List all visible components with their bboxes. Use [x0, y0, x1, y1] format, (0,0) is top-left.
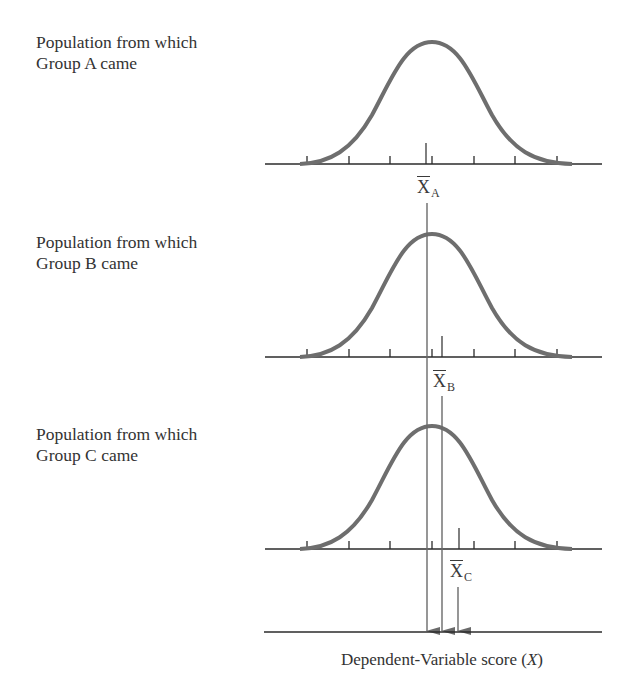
- group-a-normal-curve: [300, 42, 572, 164]
- group-b-mean-subscript: B: [447, 380, 455, 394]
- group-c-mean-subscript: C: [464, 570, 472, 584]
- group-b-distribution: [265, 234, 602, 357]
- group-b-ticks: [307, 349, 557, 357]
- dependent-variable-axis-title: Dependent-Variable score (X): [292, 650, 592, 670]
- group-b-mean-symbol: X: [433, 371, 446, 391]
- group-a-ticks: [307, 156, 557, 164]
- axis-title-prefix: Dependent-Variable score (: [341, 650, 527, 669]
- group-a-distribution: [265, 42, 602, 164]
- axis-title-suffix: ): [537, 650, 543, 669]
- group-b-mean-label: XB: [433, 372, 455, 393]
- group-c-normal-curve: [300, 426, 572, 549]
- group-c-ticks: [307, 541, 557, 549]
- group-c-mean-label: XC: [450, 562, 472, 583]
- group-c-mean-symbol: X: [450, 561, 463, 581]
- group-a-mean-subscript: A: [431, 186, 440, 200]
- group-a-mean-label: XA: [417, 178, 440, 199]
- distribution-diagram: [0, 0, 635, 692]
- axis-title-variable: X: [527, 650, 537, 669]
- group-a-mean-symbol: X: [417, 177, 430, 197]
- group-b-normal-curve: [300, 234, 572, 357]
- group-c-distribution: [265, 426, 602, 549]
